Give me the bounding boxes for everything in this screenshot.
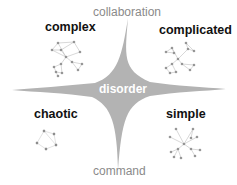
quadrant-label-complex: complex	[45, 21, 96, 34]
axis-label-top: collaboration	[93, 6, 161, 18]
quadrant-label-simple: simple	[166, 108, 206, 121]
quadrant-label-complicated: complicated	[159, 24, 232, 37]
cynefin-diagram: collaboration command complex complicate…	[0, 0, 237, 185]
simple-network-icon	[169, 128, 201, 159]
quadrant-label-chaotic: chaotic	[34, 108, 78, 121]
center-label-disorder: disorder	[99, 83, 147, 95]
complicated-network-icon	[165, 42, 195, 74]
chaotic-network-icon	[36, 130, 57, 150]
complex-network-icon	[51, 41, 83, 77]
axis-label-bottom: command	[93, 165, 146, 177]
